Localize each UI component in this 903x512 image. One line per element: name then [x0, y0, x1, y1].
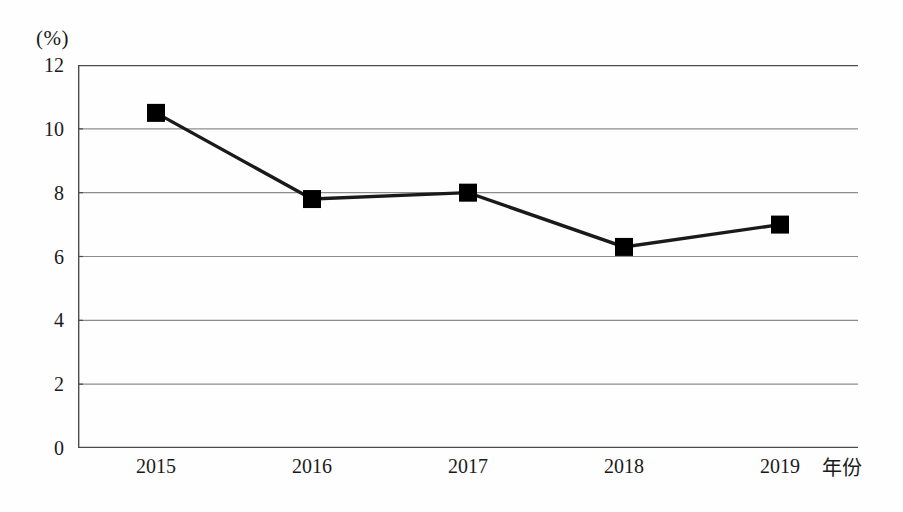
series-markers: [147, 104, 789, 256]
x-axis-caption: 年份: [822, 452, 862, 481]
y-axis-tick-label: 6: [8, 245, 64, 268]
gridlines: [78, 129, 858, 384]
x-axis-tick-label: 2018: [564, 455, 684, 478]
data-point-marker: [459, 184, 477, 202]
data-point-marker: [147, 104, 165, 122]
y-axis-tick-label: 10: [8, 117, 64, 140]
x-axis-tick-label: 2016: [252, 455, 372, 478]
x-axis-tick-label: 2017: [408, 455, 528, 478]
data-point-marker: [615, 238, 633, 256]
line-chart: (%) 024681012 20152016201720182019 年份: [0, 0, 903, 512]
y-axis-tick-label: 8: [8, 181, 64, 204]
y-axis-unit-label: (%): [36, 26, 69, 51]
data-point-marker: [771, 216, 789, 234]
plot-svg: [78, 65, 858, 448]
data-point-marker: [303, 190, 321, 208]
y-axis-tick-label: 4: [8, 309, 64, 332]
y-axis-tick-label: 12: [8, 54, 64, 77]
y-axis-tick-label: 2: [8, 373, 64, 396]
plot-area: [78, 65, 858, 448]
x-axis-tick-label: 2015: [96, 455, 216, 478]
series-line: [156, 113, 780, 247]
y-axis-tick-label: 0: [8, 437, 64, 460]
